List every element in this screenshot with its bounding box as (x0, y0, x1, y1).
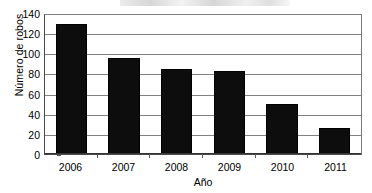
bar (56, 24, 88, 154)
y-tick-label: 20 (16, 129, 40, 141)
y-axis-tick-labels: 020406080100120140 (16, 14, 40, 155)
x-axis-tick-labels: 200620072008200920102011 (44, 160, 362, 174)
x-axis-line (45, 153, 361, 154)
x-tick-mark (255, 154, 256, 158)
bar-slot (45, 15, 98, 154)
bar-chart: Número de robos 020406080100120140 20062… (0, 0, 372, 193)
x-tick-label: 2006 (44, 160, 97, 174)
bar-slot (203, 15, 256, 154)
bar (161, 69, 193, 154)
bar (266, 104, 298, 154)
bar (214, 71, 246, 154)
bar-slot (308, 15, 361, 154)
x-tick-mark (97, 154, 98, 158)
bar-series (45, 15, 361, 154)
x-tick-label: 2011 (309, 160, 362, 174)
y-tick-label: 60 (16, 89, 40, 101)
x-tick-label: 2009 (203, 160, 256, 174)
x-tick-label: 2010 (256, 160, 309, 174)
y-tick-label: 100 (16, 48, 40, 60)
x-tick-mark (307, 154, 308, 158)
y-tick-label: 40 (16, 109, 40, 121)
bar-slot (98, 15, 151, 154)
x-tick-mark (202, 154, 203, 158)
x-axis-title: Año (44, 176, 362, 189)
bar (319, 128, 351, 154)
y-tick-label: 0 (16, 149, 40, 161)
x-tick-mark (149, 154, 150, 158)
plot-area (44, 14, 362, 155)
y-tick-label: 80 (16, 68, 40, 80)
y-tick-label: 140 (16, 8, 40, 20)
bar (108, 58, 140, 154)
cut-off-chart-title (120, 0, 290, 6)
y-tick-mark (57, 155, 61, 156)
bar-slot (150, 15, 203, 154)
y-tick-label: 120 (16, 28, 40, 40)
x-tick-label: 2007 (97, 160, 150, 174)
x-tick-label: 2008 (150, 160, 203, 174)
bar-slot (256, 15, 309, 154)
